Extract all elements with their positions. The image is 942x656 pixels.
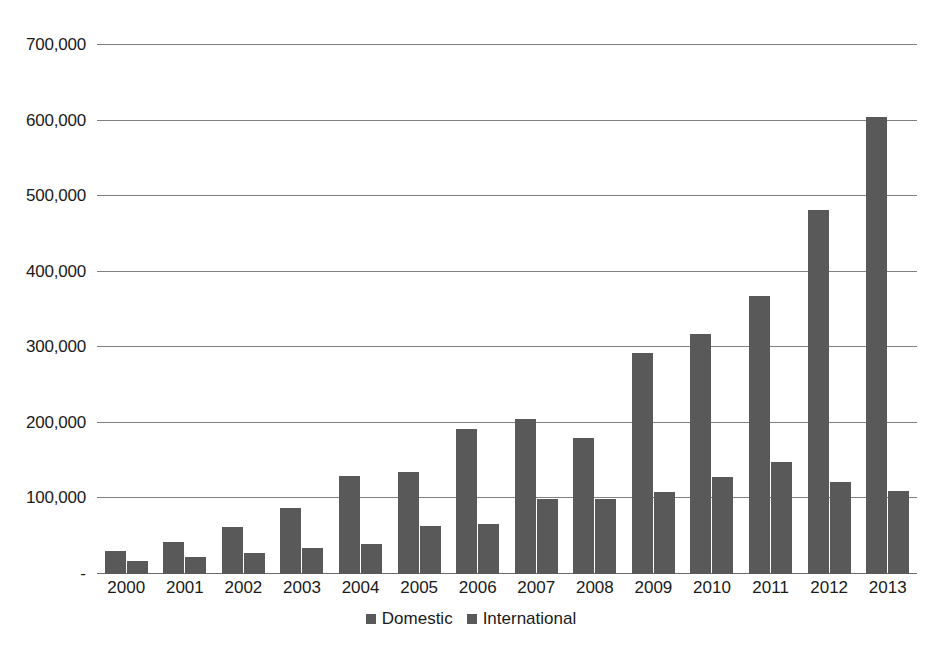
- bar-domestic-2007: [515, 419, 536, 574]
- bar-international-2004: [361, 544, 382, 574]
- y-tick-label: 300,000: [26, 337, 86, 357]
- bar-group: [214, 45, 273, 574]
- bar-international-2000: [127, 561, 148, 574]
- bar-international-2001: [185, 557, 206, 574]
- bar-group: [97, 45, 156, 574]
- bar-international-2006: [478, 524, 499, 574]
- bar-group: [800, 45, 859, 574]
- x-tick-label: 2011: [752, 578, 789, 598]
- x-tick-label: 2002: [225, 578, 263, 598]
- x-tick-label: 2009: [635, 578, 673, 598]
- bar-domestic-2009: [632, 353, 653, 574]
- bar-international-2010: [712, 477, 733, 574]
- bar-domestic-2010: [690, 334, 711, 574]
- y-tick-label: 500,000: [26, 186, 86, 206]
- bar-group: [448, 45, 507, 574]
- x-tick-label: 2013: [869, 578, 907, 598]
- x-tick-label: 2006: [459, 578, 497, 598]
- bar-international-2012: [830, 482, 851, 574]
- legend-label: Domestic: [382, 609, 453, 629]
- x-tick-label: 2012: [810, 578, 848, 598]
- bar-domestic-2002: [222, 527, 243, 574]
- y-tick-label: 100,000: [26, 488, 86, 508]
- bar-group: [566, 45, 625, 574]
- x-tick-label: 2003: [283, 578, 321, 598]
- bar-international-2013: [888, 491, 909, 574]
- bar-international-2005: [420, 526, 441, 574]
- chart-legend: DomesticInternational: [0, 609, 942, 629]
- bar-domestic-2000: [105, 551, 126, 574]
- x-tick-label: 2008: [576, 578, 614, 598]
- x-tick-label: 2005: [400, 578, 438, 598]
- bar-international-2003: [302, 548, 323, 574]
- bar-group: [507, 45, 566, 574]
- x-tick-label: 2004: [342, 578, 380, 598]
- x-tick-label: 2001: [166, 578, 204, 598]
- plot-area: [97, 45, 917, 574]
- y-tick-label: 200,000: [26, 413, 86, 433]
- bar-international-2002: [244, 553, 265, 574]
- bar-chart: -100,000200,000300,000400,000500,000600,…: [0, 0, 942, 656]
- bars-layer: [97, 45, 917, 574]
- legend-swatch-icon: [467, 614, 477, 624]
- bar-domestic-2011: [749, 296, 770, 574]
- y-tick-label: 400,000: [26, 262, 86, 282]
- bar-group: [156, 45, 215, 574]
- bar-group: [858, 45, 917, 574]
- x-axis: 2000200120022003200420052006200720082009…: [97, 578, 917, 606]
- bar-group: [624, 45, 683, 574]
- bar-domestic-2005: [398, 472, 419, 574]
- bar-group: [390, 45, 449, 574]
- bar-international-2008: [595, 499, 616, 574]
- bar-group: [683, 45, 742, 574]
- bar-domestic-2001: [163, 542, 184, 574]
- bar-domestic-2003: [280, 508, 301, 575]
- y-tick-label: 700,000: [26, 35, 86, 55]
- y-tick-label: 600,000: [26, 111, 86, 131]
- bar-international-2007: [537, 499, 558, 574]
- x-tick-label: 2000: [107, 578, 145, 598]
- legend-label: International: [483, 609, 577, 629]
- y-axis: -100,000200,000300,000400,000500,000600,…: [0, 45, 86, 574]
- bar-domestic-2004: [339, 476, 360, 574]
- x-tick-label: 2010: [693, 578, 731, 598]
- bar-domestic-2012: [808, 210, 829, 574]
- legend-swatch-icon: [366, 614, 376, 624]
- y-tick-label: -: [80, 564, 86, 584]
- legend-item-domestic[interactable]: Domestic: [366, 609, 453, 629]
- legend-item-international[interactable]: International: [467, 609, 577, 629]
- bar-domestic-2006: [456, 429, 477, 574]
- bar-group: [331, 45, 390, 574]
- x-tick-label: 2007: [517, 578, 555, 598]
- bar-domestic-2008: [573, 438, 594, 574]
- bar-international-2011: [771, 462, 792, 574]
- bar-group: [741, 45, 800, 574]
- bar-group: [273, 45, 332, 574]
- bar-domestic-2013: [866, 117, 887, 574]
- bar-international-2009: [654, 492, 675, 574]
